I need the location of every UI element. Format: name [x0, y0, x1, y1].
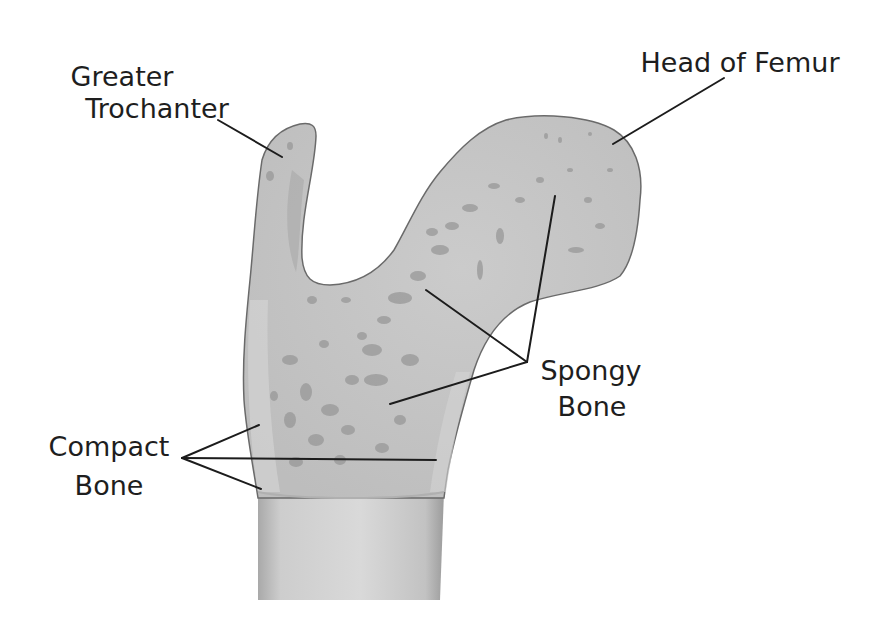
- label-line: Spongy: [540, 355, 641, 386]
- leader-greater-trochanter: [218, 120, 282, 157]
- label-line: Bone: [558, 391, 627, 422]
- label-compact-bone: Compact Bone: [49, 431, 170, 501]
- label-line: Greater: [71, 61, 175, 92]
- label-line: Compact: [49, 431, 170, 462]
- femur-diagram: Greater Trochanter Head of Femur Spongy …: [0, 0, 874, 638]
- leader-compact-bone-1: [182, 425, 259, 458]
- femur-shaft: [258, 492, 444, 600]
- leader-head-of-femur: [613, 78, 724, 144]
- label-spongy-bone: Spongy Bone: [540, 355, 641, 422]
- label-line: Head of Femur: [641, 47, 841, 78]
- label-greater-trochanter: Greater Trochanter: [71, 61, 230, 124]
- leader-compact-bone-3: [182, 458, 261, 489]
- label-head-of-femur: Head of Femur: [641, 47, 841, 78]
- label-line: Bone: [75, 470, 144, 501]
- label-line: Trochanter: [84, 93, 229, 124]
